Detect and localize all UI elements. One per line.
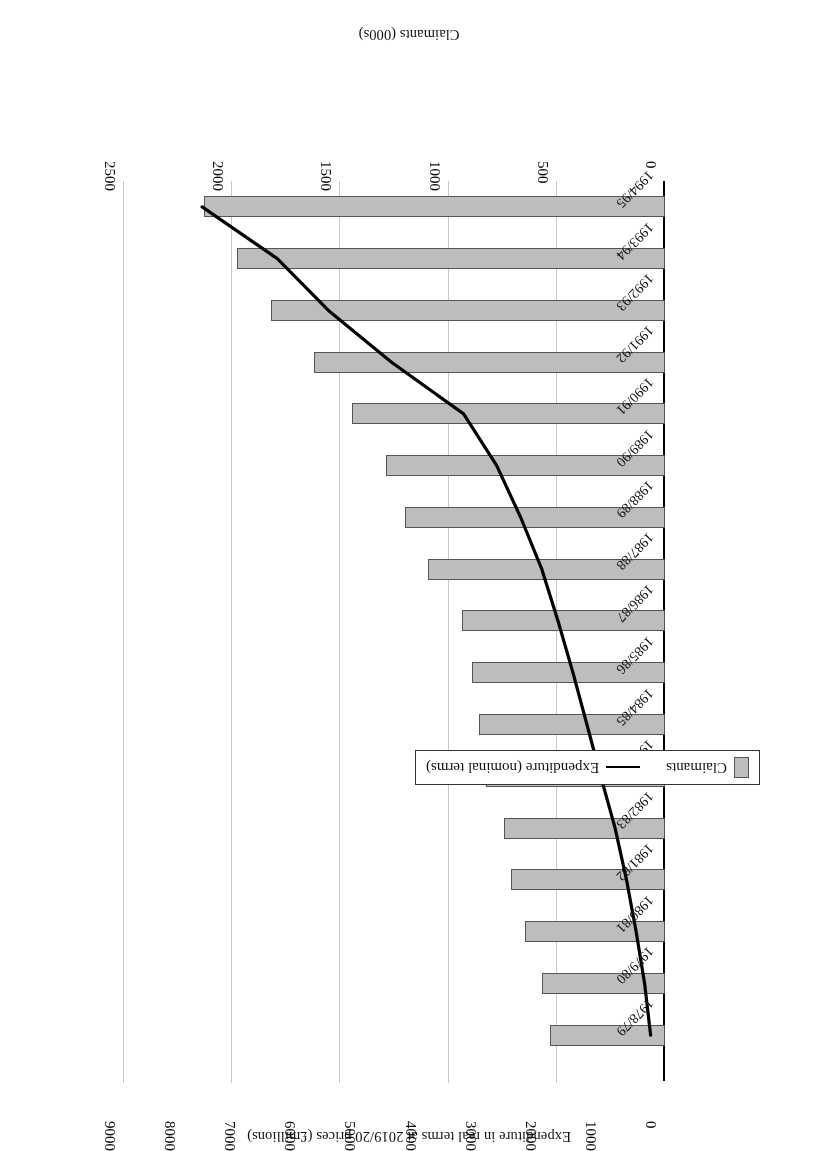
chart-figure: Expenditure in real terms at 2019/20 pri… [0,0,818,1151]
secondary-tick-label: 6000 [281,1121,298,1151]
primary-tick-label: 500 [534,161,551,184]
legend-label-claimants: Claimants [666,759,727,776]
secondary-tick-label: 0 [642,1121,659,1129]
chart-legend: Claimants Expenditure (nominal terms) [415,750,760,785]
secondary-tick-label: 4000 [402,1121,419,1151]
line-swatch-icon [606,767,640,769]
secondary-tick-label: 2000 [522,1121,539,1151]
plot-area [124,181,665,1061]
secondary-tick-label: 1000 [582,1121,599,1151]
legend-item-claimants: Claimants [666,757,749,778]
line-series-expenditure [105,161,665,1061]
legend-item-expenditure: Expenditure (nominal terms) [426,759,640,776]
bar-swatch-icon [734,757,749,778]
secondary-tick-label: 5000 [341,1121,358,1151]
secondary-tick-label: 8000 [161,1121,178,1151]
legend-label-expenditure: Expenditure (nominal terms) [426,759,599,776]
primary-axis-title: Claimants (000s) [0,26,818,43]
primary-tick-label: 1000 [426,161,443,191]
secondary-tick-label: 3000 [462,1121,479,1151]
primary-tick-label: 1500 [317,161,334,191]
primary-tick-label: 2000 [209,161,226,191]
rotated-figure-wrapper: Expenditure in real terms at 2019/20 pri… [0,0,818,1151]
primary-tick-label: 2500 [101,161,118,191]
secondary-tick-label: 9000 [101,1121,118,1151]
secondary-tick-label: 7000 [221,1121,238,1151]
